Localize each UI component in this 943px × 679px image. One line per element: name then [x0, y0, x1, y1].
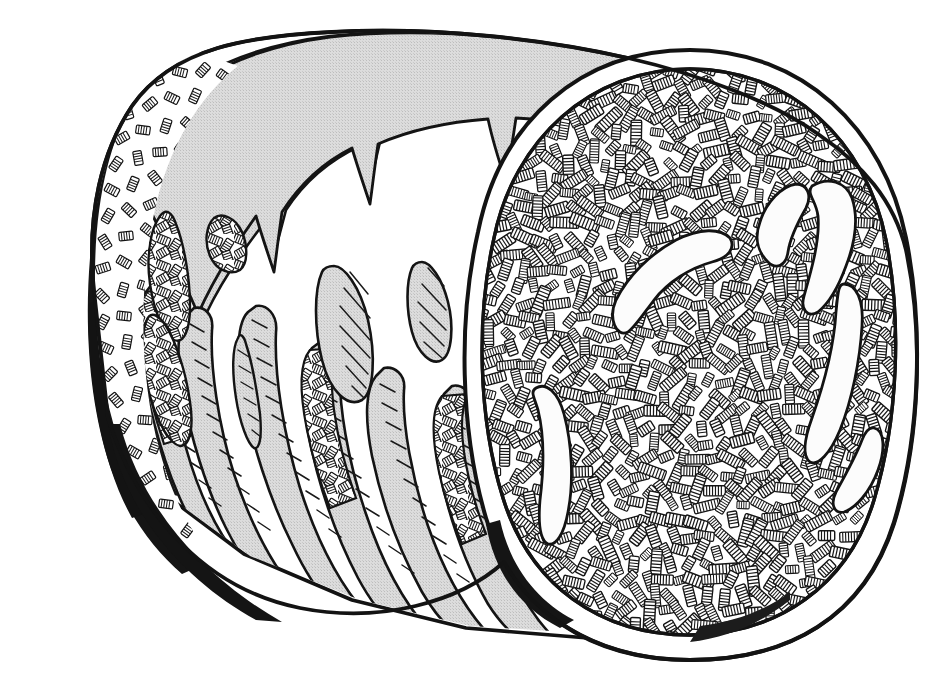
- fiber-bale-illustration: [0, 0, 943, 679]
- illustration-canvas: Pen and ink drawing of a cylindrical bal…: [0, 0, 943, 679]
